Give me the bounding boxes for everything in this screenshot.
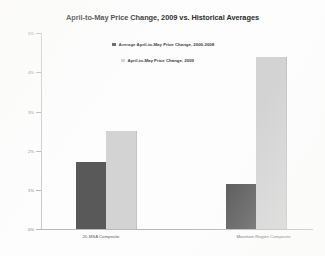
chart-legend: Average April-to-May Price Change, 2000-… (112, 42, 214, 74)
bar-mountain-2009 (256, 57, 287, 230)
x-axis-category-label-mountain: Mountain Region Composite (211, 234, 316, 239)
bar-20msa-2009 (106, 131, 137, 229)
bar-20msa-historical (76, 162, 107, 229)
x-axis-line (41, 229, 313, 230)
legend-swatch-icon (121, 59, 125, 63)
legend-label: Average April-to-May Price Change, 2000-… (119, 42, 215, 47)
y-axis-line (41, 33, 42, 230)
legend-entry-2009: April-to-May Price Change, 2009 (121, 58, 214, 63)
chart-title: April-to-May Price Change, 2009 vs. Hist… (0, 13, 325, 22)
bar-mountain-historical (226, 184, 257, 229)
y-axis-tick-label: 5% (12, 31, 34, 36)
y-axis-tick (36, 229, 41, 230)
legend-entry-historical: Average April-to-May Price Change, 2000-… (112, 42, 214, 47)
x-axis-category-label-20msa: 20-MSA Composite (56, 234, 146, 239)
y-axis-tick (36, 190, 41, 191)
y-axis-tick-label: 2% (12, 149, 34, 154)
legend-label: April-to-May Price Change, 2009 (128, 58, 194, 63)
y-axis-tick-label: 4% (12, 70, 34, 75)
bar-chart-figure: April-to-May Price Change, 2009 vs. Hist… (0, 0, 325, 256)
y-axis-tick-label: 0% (12, 227, 34, 232)
y-axis-tick-label: 3% (12, 110, 34, 115)
y-axis-tick (36, 33, 41, 34)
legend-swatch-icon (112, 43, 116, 47)
y-axis-tick (36, 112, 41, 113)
y-axis-tick (36, 72, 41, 73)
y-axis-tick (36, 151, 41, 152)
y-axis-tick-label: 1% (12, 188, 34, 193)
